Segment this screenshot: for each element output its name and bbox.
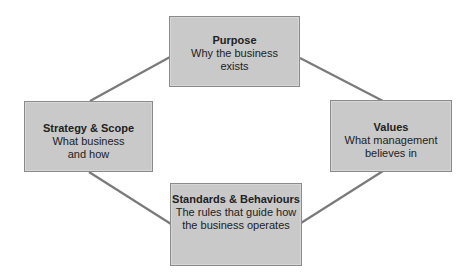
node-values: Values What management believes in <box>330 100 452 172</box>
node-strategy-line-2: and how <box>25 148 152 161</box>
node-strategy-scope: Strategy & Scope What business and how <box>24 101 153 172</box>
node-values-line-1: What management <box>331 134 451 147</box>
connector-strategy-purpose <box>90 57 170 101</box>
node-values-line-2: believes in <box>331 147 451 160</box>
connector-purpose-values <box>300 58 383 101</box>
connector-values-standards <box>301 171 383 223</box>
node-standards-line-2: the business operates <box>171 219 301 232</box>
node-standards-line-1: The rules that guide how <box>171 206 301 219</box>
node-purpose-title: Purpose <box>170 34 299 47</box>
node-standards-behaviours: Standards & Behaviours The rules that gu… <box>170 183 302 266</box>
node-values-title: Values <box>331 121 451 134</box>
node-purpose-line-2: exists <box>170 60 299 73</box>
node-strategy-line-1: What business <box>25 135 152 148</box>
node-purpose: Purpose Why the business exists <box>169 16 300 87</box>
node-purpose-line-1: Why the business <box>170 47 299 60</box>
connector-strategy-standards <box>89 172 171 224</box>
node-strategy-title: Strategy & Scope <box>25 122 152 135</box>
node-standards-title: Standards & Behaviours <box>171 193 301 206</box>
